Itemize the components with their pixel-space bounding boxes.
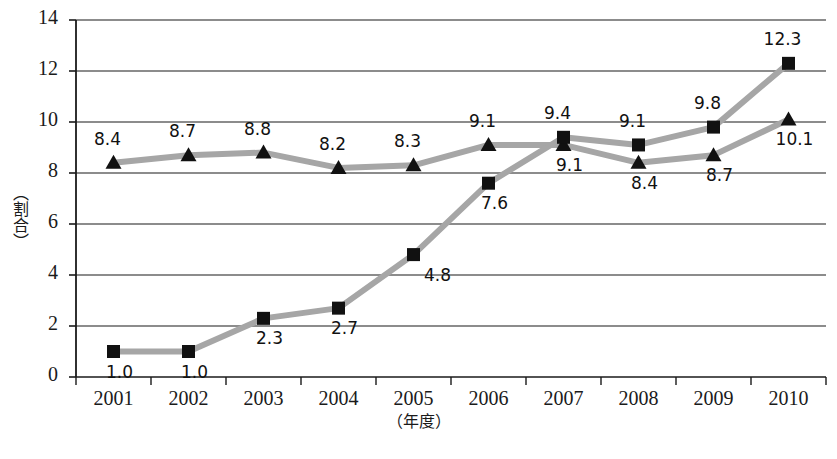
data-point-label: 8.8 [228,119,288,139]
data-point-label: 8.7 [690,165,750,185]
data-point-label: 10.1 [765,129,825,149]
data-point-marker-square [632,138,645,151]
data-point-marker-square [482,177,495,190]
data-point-label: 1.0 [90,362,150,382]
data-point-label: 12.3 [753,29,813,49]
y-axis-tick-label: 12 [18,57,58,80]
y-axis-tick-label: 14 [18,6,58,29]
x-axis-tick-label: 2004 [299,387,379,410]
data-point-label: 2.3 [240,328,300,348]
data-point-label: 9.1 [540,155,600,175]
data-point-label: 9.1 [453,111,513,131]
y-axis-tick-label: 8 [18,159,58,182]
y-axis-tick-label: 2 [18,312,58,335]
data-point-label: 8.7 [153,121,213,141]
line-chart: （割合） （年度） 02468101214 200120022003200420… [0,0,837,459]
data-point-marker-square [407,248,420,261]
data-point-marker-square [107,345,120,358]
data-point-marker-square [557,131,570,144]
data-point-marker-square [332,302,345,315]
data-point-marker-triangle [781,111,797,125]
y-axis-tick-label: 10 [18,108,58,131]
data-point-label: 8.4 [78,129,138,149]
data-point-marker-square [707,121,720,134]
x-axis-tick-label: 2002 [149,387,229,410]
data-point-label: 1.0 [165,362,225,382]
data-point-label: 8.2 [303,134,363,154]
data-point-label: 4.8 [408,265,468,285]
x-axis-title: （年度） [0,408,837,432]
data-point-label: 8.4 [615,173,675,193]
x-axis-tick-label: 2008 [599,387,679,410]
x-axis-tick-label: 2009 [674,387,754,410]
data-point-marker-square [257,312,270,325]
series-line-triangle [114,119,789,167]
y-axis-tick-label: 0 [18,363,58,386]
data-point-label: 8.3 [378,131,438,151]
data-point-label: 9.4 [528,103,588,123]
data-point-marker-square [782,57,795,70]
data-point-label: 7.6 [465,193,525,213]
x-axis-tick-label: 2005 [374,387,454,410]
x-axis-tick-label: 2010 [749,387,829,410]
x-axis-tick-label: 2001 [74,387,154,410]
data-point-label: 9.1 [603,111,663,131]
x-axis-tick-label: 2006 [449,387,529,410]
data-point-label: 2.7 [315,318,375,338]
data-point-label: 9.8 [678,93,738,113]
x-axis-tick-label: 2007 [524,387,604,410]
data-point-marker-square [182,345,195,358]
y-axis-tick-label: 4 [18,261,58,284]
y-axis-tick-label: 6 [18,210,58,233]
x-axis-tick-label: 2003 [224,387,304,410]
